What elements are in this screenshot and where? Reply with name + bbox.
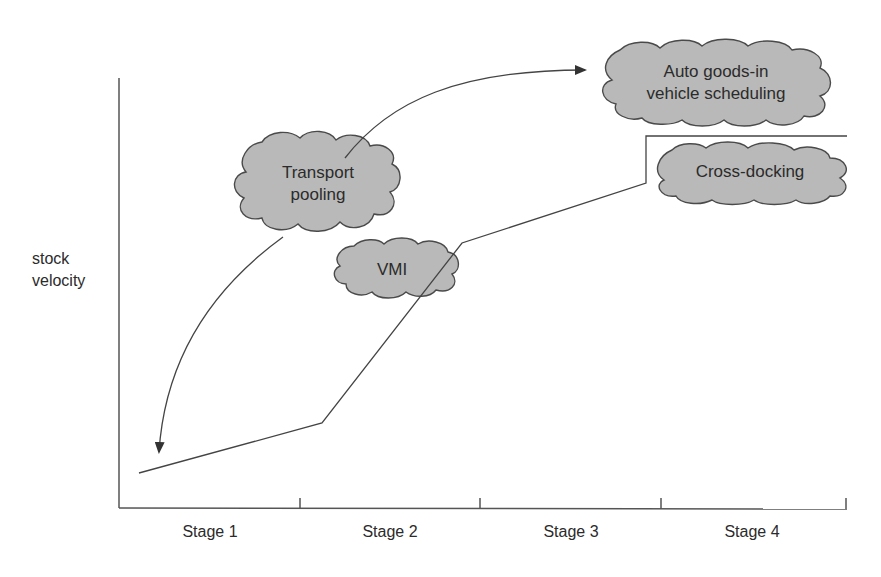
stage-label-1: Stage 1 — [182, 523, 237, 540]
cloud-shape — [603, 39, 831, 126]
stage-label-2: Stage 2 — [362, 523, 417, 540]
cloud-vmi: VMI — [334, 238, 458, 298]
cloud-auto-goods-in: Auto goods-in vehicle scheduling — [603, 39, 831, 126]
cloud-label-line-1: Auto goods-in — [664, 62, 769, 81]
cloud-label-line-1: Transport — [282, 163, 354, 182]
y-axis-label-line-1: stock — [32, 250, 70, 267]
cloud-label-line-1: VMI — [377, 260, 407, 279]
stock-velocity-diagram: stock velocity Stage 1 Stage 2 Stage 3 S… — [0, 0, 881, 577]
cloud-label-line-2: vehicle scheduling — [647, 84, 786, 103]
cloud-transport-pooling: Transport pooling — [234, 131, 400, 231]
x-axis — [119, 508, 847, 509]
stage-label-3: Stage 3 — [543, 523, 598, 540]
cloud-label-line-2: pooling — [291, 185, 346, 204]
arrow-to-stage-1 — [159, 237, 283, 452]
stage-label-4: Stage 4 — [724, 523, 779, 540]
cloud-cross-docking: Cross-docking — [658, 142, 847, 205]
y-axis-label-line-2: velocity — [32, 272, 85, 289]
cloud-label-line-1: Cross-docking — [696, 162, 805, 181]
